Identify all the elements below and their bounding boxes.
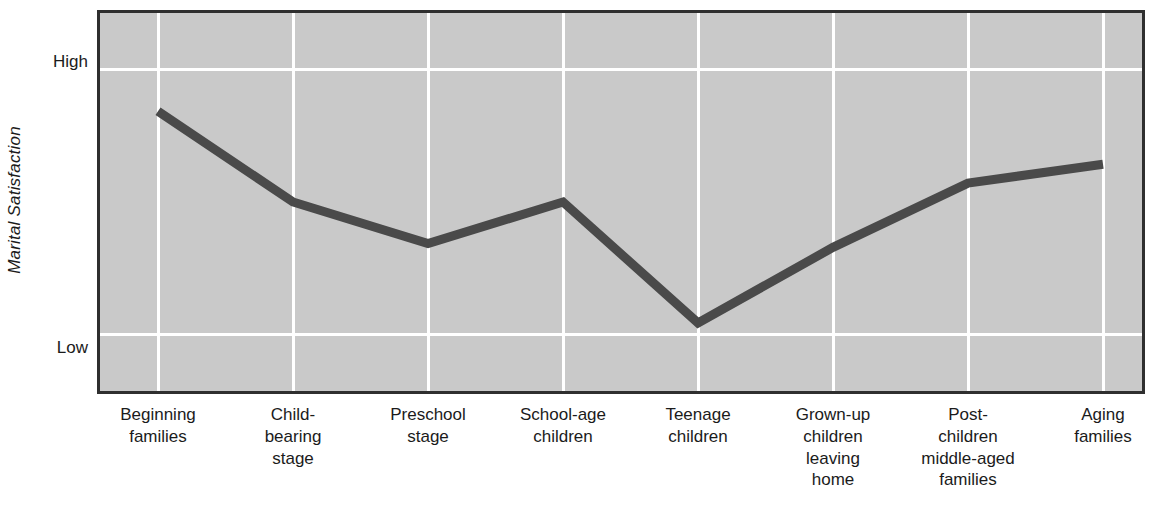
x-axis-label-5-line-3: home — [766, 469, 900, 491]
y-axis-title: Marital Satisfaction — [5, 126, 25, 274]
data-line-marital-satisfaction — [158, 111, 1103, 323]
marital-satisfaction-line-chart: Marital Satisfaction High Low Beginningf… — [0, 0, 1154, 518]
x-axis-label-2-line-0: Preschool — [361, 404, 495, 426]
data-series-layer — [100, 13, 1142, 391]
x-axis-label-6-line-1: children — [901, 426, 1035, 448]
x-axis-label-0-line-0: Beginning — [91, 404, 225, 426]
x-axis-label-4: Teenagechildren — [631, 404, 765, 448]
x-axis-label-6-line-2: middle-aged — [901, 448, 1035, 470]
x-axis-label-2: Preschoolstage — [361, 404, 495, 448]
x-axis-label-7: Agingfamilies — [1036, 404, 1154, 448]
x-axis-label-3-line-0: School-age — [496, 404, 630, 426]
x-axis-label-6-line-0: Post- — [901, 404, 1035, 426]
x-axis-label-3: School-agechildren — [496, 404, 630, 448]
plot-inner — [100, 13, 1142, 391]
x-axis-label-7-line-0: Aging — [1036, 404, 1154, 426]
y-axis-tick-label-low: Low — [28, 339, 88, 356]
x-axis-tick-labels: BeginningfamiliesChild-bearingstagePresc… — [97, 404, 1145, 514]
x-axis-label-1-line-2: stage — [226, 448, 360, 470]
x-axis-label-5-line-0: Grown-up — [766, 404, 900, 426]
x-axis-label-5-line-1: children — [766, 426, 900, 448]
x-axis-label-2-line-1: stage — [361, 426, 495, 448]
x-axis-label-6: Post-childrenmiddle-agedfamilies — [901, 404, 1035, 491]
x-axis-label-1-line-0: Child- — [226, 404, 360, 426]
x-axis-label-0: Beginningfamilies — [91, 404, 225, 448]
x-axis-label-4-line-1: children — [631, 426, 765, 448]
x-axis-label-0-line-1: families — [91, 426, 225, 448]
x-axis-label-1-line-1: bearing — [226, 426, 360, 448]
y-axis-tick-label-high: High — [28, 53, 88, 70]
y-axis-title-container: Marital Satisfaction — [0, 0, 30, 400]
x-axis-label-1: Child-bearingstage — [226, 404, 360, 469]
plot-area — [97, 10, 1145, 394]
x-axis-label-7-line-1: families — [1036, 426, 1154, 448]
x-axis-label-5: Grown-upchildrenleavinghome — [766, 404, 900, 491]
x-axis-label-4-line-0: Teenage — [631, 404, 765, 426]
x-axis-label-5-line-2: leaving — [766, 448, 900, 470]
x-axis-label-3-line-1: children — [496, 426, 630, 448]
x-axis-label-6-line-3: families — [901, 469, 1035, 491]
